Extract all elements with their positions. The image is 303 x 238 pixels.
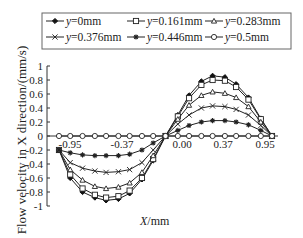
data-point-marker [80,133,85,138]
data-point-marker [186,133,191,138]
data-point-marker [234,84,239,89]
data-point-marker [234,133,239,138]
data-point-marker [127,133,132,138]
data-point-marker [133,18,138,23]
data-point-marker [127,152,132,157]
data-point-marker [186,96,191,101]
x-tick-label: 0.95 [255,138,275,150]
y-tick-label: 0 [38,130,44,142]
data-point-marker [116,133,121,138]
legend-label: y=0.446mm [146,31,202,44]
x-tick-label: 0.37 [213,138,233,150]
line-chart: 10.80.60.40.20-0.2-0.4-0.6-0.8-1-0.95-0.… [0,0,303,238]
legend-label: y=0.5mm [224,31,269,44]
data-point-marker [68,150,73,155]
data-point-marker [151,147,156,152]
data-point-marker [92,153,97,158]
x-axis-label-unit: /mm [147,214,169,228]
y-tick-label: -1 [34,200,43,212]
data-point-marker [210,133,215,138]
data-point-marker [234,119,239,124]
data-point-marker [210,118,215,123]
data-point-marker [133,34,138,39]
y-axis-label: Flow velocity in X direction/(mm/s) [14,40,30,238]
data-point-marker [222,118,227,123]
y-tick-label: 0.2 [29,116,43,128]
data-point-marker [199,119,204,124]
x-tick-label: -0.37 [111,138,134,150]
data-point-marker [258,128,263,133]
data-point-marker [103,133,108,138]
data-point-marker [175,133,180,138]
legend-label: y=0.283mm [224,15,280,28]
data-point-marker [80,152,85,157]
x-axis-label: X/mm [140,214,169,229]
data-point-marker [151,133,156,138]
y-tick-label: 0.4 [29,102,43,114]
chart-series [56,73,274,203]
data-point-marker [68,160,73,165]
data-point-marker [92,133,97,138]
y-tick-label: 1 [38,60,44,72]
data-point-marker [246,97,251,102]
data-point-marker [175,128,180,133]
data-point-marker [199,133,204,138]
data-point-marker [92,184,97,189]
data-point-marker [139,175,144,180]
legend: y=0mmy=0.161mmy=0.283mmy=0.376mmy=0.446m… [42,13,291,49]
data-point-marker [139,160,144,165]
data-point-marker [222,78,227,83]
data-point-marker [163,133,168,138]
data-point-marker [68,133,73,138]
y-tick-label: 0.6 [29,88,43,100]
y-tick-label: 0.8 [29,74,43,86]
data-point-marker [116,194,121,199]
series-y-0-283mm [56,89,274,190]
data-point-marker [151,140,156,145]
data-point-marker [186,123,191,128]
data-point-marker [222,133,227,138]
data-point-marker [103,195,108,200]
data-point-marker [80,186,85,191]
legend-label: y=0mm [65,15,101,28]
data-point-marker [258,133,263,138]
data-point-marker [68,172,73,177]
data-point-marker [246,112,251,117]
x-tick-label: -0.95 [59,138,82,150]
data-point-marker [127,188,132,193]
series-y-0-5mm [56,133,274,138]
data-point-marker [56,133,61,138]
data-point-marker [139,133,144,138]
data-point-marker [56,147,61,152]
data-point-marker [186,112,191,117]
data-point-marker [246,133,251,138]
data-point-marker [199,82,204,87]
legend-label: y=0.376mm [65,31,121,44]
data-point-marker [211,34,216,39]
data-point-marker [269,133,274,138]
data-point-marker [246,122,251,127]
data-point-marker [116,153,121,158]
data-point-marker [210,77,215,82]
data-point-marker [175,122,180,127]
x-tick-label: 0.00 [172,138,192,150]
legend-label: y=0.161mm [146,15,202,28]
data-point-marker [139,147,144,152]
data-point-marker [103,153,108,158]
series-line [59,92,272,189]
data-point-marker [92,192,97,197]
